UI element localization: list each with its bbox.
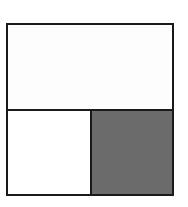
- region-fraction-label: 1/4: [92, 111, 93, 112]
- fraction-square: 1/2 1/4 1/4: [6, 23, 174, 196]
- shaded-quarter-region: 1/4: [92, 111, 172, 194]
- region-fraction-label: 1/4: [8, 111, 9, 112]
- bottom-left-quarter-region: 1/4: [8, 111, 90, 194]
- top-half-region: 1/2: [8, 25, 172, 110]
- region-fraction-label: 1/2: [8, 25, 9, 26]
